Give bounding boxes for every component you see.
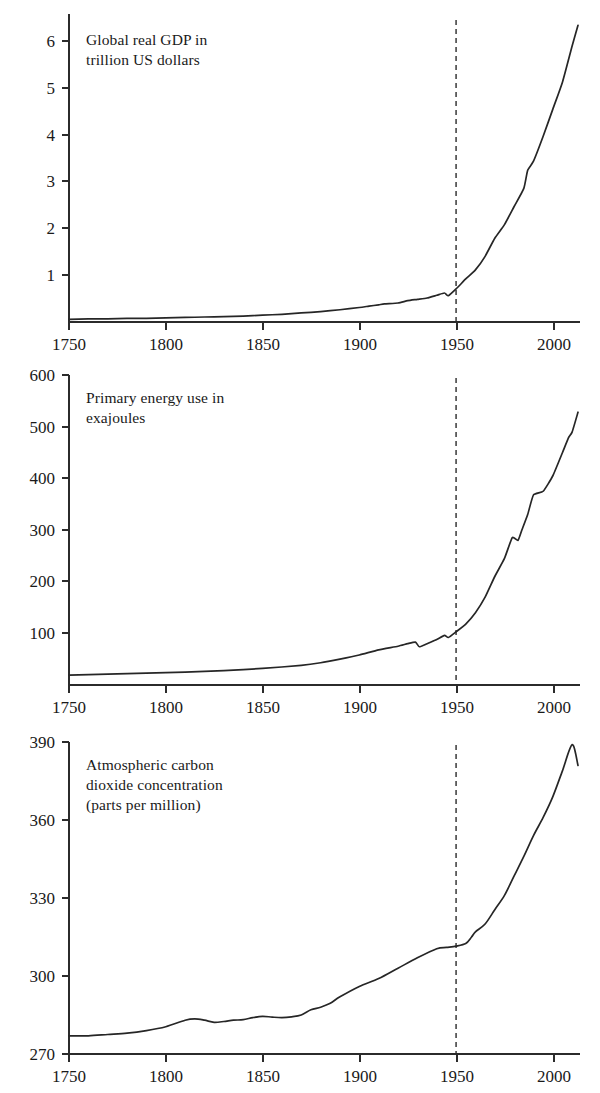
energy-x-tick-labels: 1750 1800 1850 1900 1950 2000 xyxy=(52,698,571,717)
gdp-ytick-1: 1 xyxy=(47,266,56,285)
energy-ytick-400: 400 xyxy=(30,469,56,488)
gdp-xtick-1850: 1850 xyxy=(246,335,280,354)
energy-x-ticks xyxy=(69,685,554,693)
co2-y-tick-labels: 390 360 330 300 270 xyxy=(30,733,56,1064)
gdp-ytick-2: 2 xyxy=(47,219,56,238)
gdp-xtick-2000: 2000 xyxy=(537,335,571,354)
co2-ytick-330: 330 xyxy=(30,889,56,908)
co2-panel: 390 360 330 300 270 1750 1800 1850 1900 … xyxy=(0,725,600,1093)
co2-xtick-1750: 1750 xyxy=(52,1067,86,1086)
energy-xtick-1850: 1850 xyxy=(246,698,280,717)
energy-panel: 600 500 400 300 200 100 1750 1800 1850 1… xyxy=(0,360,600,725)
energy-xtick-1750: 1750 xyxy=(52,698,86,717)
gdp-panel: 6 5 4 3 2 1 1750 1800 1850 1900 1950 200… xyxy=(0,0,600,360)
gdp-xtick-1950: 1950 xyxy=(440,335,474,354)
energy-ytick-500: 500 xyxy=(30,418,56,437)
gdp-y-ticks xyxy=(62,41,69,275)
gdp-ytick-6: 6 xyxy=(47,32,56,51)
gdp-ytick-3: 3 xyxy=(47,172,56,191)
co2-xtick-1900: 1900 xyxy=(343,1067,377,1086)
co2-y-ticks xyxy=(62,742,69,1054)
energy-y-ticks xyxy=(62,375,69,633)
co2-ytick-390: 390 xyxy=(30,733,56,752)
energy-xtick-1900: 1900 xyxy=(343,698,377,717)
energy-series-line xyxy=(69,412,578,675)
co2-ytick-270: 270 xyxy=(30,1045,56,1064)
energy-xtick-1950: 1950 xyxy=(440,698,474,717)
three-panel-line-chart-figure: 6 5 4 3 2 1 1750 1800 1850 1900 1950 200… xyxy=(0,0,600,1093)
energy-ytick-200: 200 xyxy=(30,572,56,591)
co2-xtick-2000: 2000 xyxy=(537,1067,571,1086)
co2-x-ticks xyxy=(69,1054,554,1062)
gdp-caption: Global real GDP in trillion US dollars xyxy=(86,30,207,70)
gdp-xtick-1900: 1900 xyxy=(343,335,377,354)
gdp-xtick-1750: 1750 xyxy=(52,335,86,354)
energy-xtick-2000: 2000 xyxy=(537,698,571,717)
energy-ytick-600: 600 xyxy=(30,366,56,385)
co2-xtick-1800: 1800 xyxy=(149,1067,183,1086)
energy-ytick-300: 300 xyxy=(30,521,56,540)
gdp-y-tick-labels: 6 5 4 3 2 1 xyxy=(47,32,56,285)
energy-ytick-100: 100 xyxy=(30,624,56,643)
co2-ytick-300: 300 xyxy=(30,967,56,986)
gdp-x-ticks xyxy=(69,322,554,330)
gdp-x-tick-labels: 1750 1800 1850 1900 1950 2000 xyxy=(52,335,571,354)
gdp-ytick-5: 5 xyxy=(47,79,56,98)
energy-y-tick-labels: 600 500 400 300 200 100 xyxy=(30,366,56,643)
gdp-xtick-1800: 1800 xyxy=(149,335,183,354)
gdp-ytick-4: 4 xyxy=(47,126,56,145)
co2-ytick-360: 360 xyxy=(30,811,56,830)
energy-xtick-1800: 1800 xyxy=(149,698,183,717)
energy-caption: Primary energy use in exajoules xyxy=(86,388,224,428)
co2-caption: Atmospheric carbon dioxide concentration… xyxy=(86,755,223,814)
co2-x-tick-labels: 1750 1800 1850 1900 1950 2000 xyxy=(52,1067,571,1086)
co2-xtick-1950: 1950 xyxy=(440,1067,474,1086)
co2-xtick-1850: 1850 xyxy=(246,1067,280,1086)
